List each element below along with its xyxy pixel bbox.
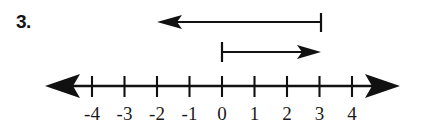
tick-label-3: 3 (315, 104, 325, 123)
tick-label-1: 1 (250, 104, 260, 123)
number-line-diagram (0, 0, 425, 127)
tick-label-2: 2 (282, 104, 292, 123)
tick-label--1: -1 (182, 104, 198, 123)
tick-label--2: -2 (149, 104, 165, 123)
tick-label-4: 4 (347, 104, 357, 123)
number-line-problem-figure: 3. (0, 0, 425, 127)
tick-label--3: -3 (117, 104, 133, 123)
upper-vector (157, 13, 321, 32)
tick-label--4: -4 (84, 104, 100, 123)
tick-label-0: 0 (217, 104, 227, 123)
number-line-axis (45, 74, 400, 98)
lower-vector (222, 42, 321, 62)
